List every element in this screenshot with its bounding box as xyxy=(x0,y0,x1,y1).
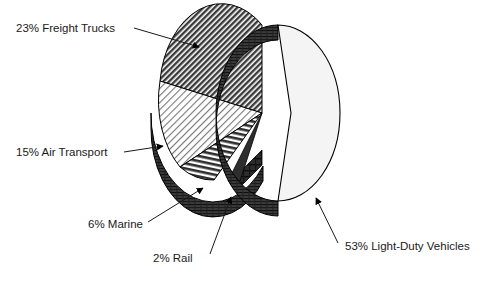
pie-chart-figure: 23% Freight Trucks 15% Air Transport 6% … xyxy=(0,0,498,282)
label-light-duty-vehicles: 53% Light-Duty Vehicles xyxy=(345,240,470,252)
label-marine: 6% Marine xyxy=(88,218,143,230)
label-rail: 2% Rail xyxy=(153,252,193,264)
pie-chart-svg: 23% Freight Trucks 15% Air Transport 6% … xyxy=(0,0,498,282)
leader-line-light-duty xyxy=(316,198,338,243)
pie-body-left xyxy=(151,4,263,217)
label-air-transport: 15% Air Transport xyxy=(16,146,108,158)
label-freight-trucks: 23% Freight Trucks xyxy=(16,22,115,34)
slice-light-duty-vehicles[interactable] xyxy=(278,25,340,201)
